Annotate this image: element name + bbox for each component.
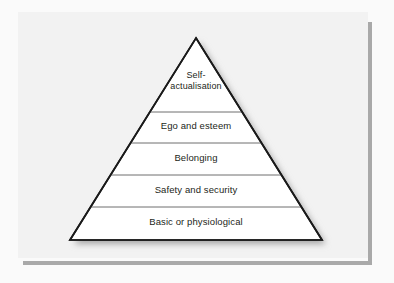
pyramid-body: [70, 38, 322, 240]
figure-canvas: Self- actualisation Ego and esteem Belon…: [0, 0, 394, 283]
pyramid-diagram: Self- actualisation Ego and esteem Belon…: [0, 0, 394, 283]
pyramid-svg: [0, 0, 394, 283]
